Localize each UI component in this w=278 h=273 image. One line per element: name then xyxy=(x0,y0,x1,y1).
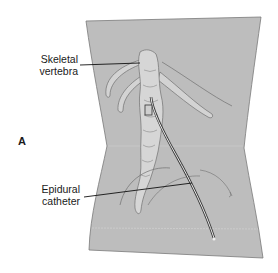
label-line: catheter xyxy=(22,195,80,207)
panel-letter: A xyxy=(18,135,26,147)
back-torso-drawing xyxy=(0,0,278,273)
label-line: Epidural xyxy=(22,183,80,195)
label-line: vertebra xyxy=(22,65,78,77)
label-line: Skeletal xyxy=(22,53,78,65)
label-epidural-catheter: Epidural catheter xyxy=(22,183,80,207)
label-skeletal-vertebra: Skeletal vertebra xyxy=(22,53,78,77)
torso-shape xyxy=(86,17,263,258)
catheter-hub xyxy=(145,105,152,115)
epidural-catheter-illustration: Skeletal vertebra A Epidural catheter xyxy=(0,0,278,273)
